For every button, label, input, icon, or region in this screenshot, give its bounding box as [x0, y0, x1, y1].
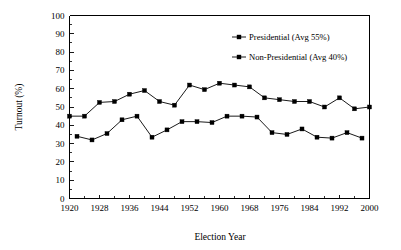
- data-point-marker: [360, 136, 364, 140]
- data-point-marker: [293, 100, 297, 104]
- legend-item-1: Presidential (Avg 55%): [232, 32, 330, 42]
- data-point-marker: [120, 118, 124, 122]
- x-tick-label: 1936: [121, 203, 140, 213]
- data-point-marker: [240, 114, 244, 118]
- turnout-line-chart: 0102030405060708090100 19201928193619441…: [0, 0, 401, 250]
- data-point-marker: [165, 128, 169, 132]
- data-point-marker: [353, 107, 357, 111]
- chart-figure: 0102030405060708090100 19201928193619441…: [0, 0, 401, 250]
- data-point-marker: [75, 134, 79, 138]
- y-tick-label: 10: [56, 175, 66, 185]
- legend-item-2: Non-Presidential (Avg 40%): [232, 52, 347, 62]
- x-tick-label: 1976: [271, 203, 290, 213]
- data-point-marker: [323, 105, 327, 109]
- y-axis-title: Turnout (%): [14, 84, 25, 131]
- y-tick-label: 90: [56, 29, 66, 39]
- x-tick-label: 1968: [241, 203, 260, 213]
- x-axis-title: Election Year: [194, 232, 246, 242]
- data-point-marker: [180, 120, 184, 124]
- y-tick-label: 70: [56, 65, 66, 75]
- data-point-marker: [135, 114, 139, 118]
- x-tick-label: 1952: [181, 203, 199, 213]
- data-point-marker: [158, 100, 162, 104]
- legend-label: Presidential (Avg 55%): [249, 32, 330, 42]
- data-point-marker: [203, 88, 207, 92]
- data-series-group: [68, 81, 372, 142]
- data-point-marker: [98, 100, 102, 104]
- x-tick-label: 1944: [151, 203, 170, 213]
- x-tick-label: 2000: [361, 203, 380, 213]
- legend-label: Non-Presidential (Avg 40%): [249, 52, 347, 62]
- x-tick-label: 1920: [61, 203, 80, 213]
- series-1: [68, 81, 372, 118]
- data-point-marker: [150, 135, 154, 139]
- data-point-marker: [300, 127, 304, 131]
- y-tick-label: 30: [56, 139, 66, 149]
- x-axis-tick-labels: 1920192819361944195219601968197619841992…: [61, 203, 380, 213]
- data-point-marker: [188, 83, 192, 87]
- data-point-marker: [68, 114, 72, 118]
- chart-legend: Presidential (Avg 55%)Non-Presidential (…: [232, 32, 347, 62]
- data-point-marker: [263, 96, 267, 100]
- y-axis-tick-labels: 0102030405060708090100: [51, 11, 65, 204]
- data-point-marker: [128, 92, 132, 96]
- data-point-marker: [248, 85, 252, 89]
- data-point-marker: [113, 100, 117, 104]
- data-point-marker: [270, 131, 274, 135]
- data-point-marker: [210, 121, 214, 125]
- x-tick-label: 1928: [91, 203, 110, 213]
- y-tick-label: 50: [56, 102, 66, 112]
- legend-marker-icon: [237, 55, 241, 59]
- series-2: [75, 114, 364, 142]
- data-point-marker: [338, 96, 342, 100]
- data-point-marker: [330, 136, 334, 140]
- data-point-marker: [308, 100, 312, 104]
- data-point-marker: [233, 83, 237, 87]
- x-tick-label: 1992: [331, 203, 349, 213]
- data-point-marker: [143, 89, 147, 93]
- y-tick-label: 20: [56, 157, 66, 167]
- y-tick-label: 60: [56, 84, 66, 94]
- series-line: [77, 116, 362, 140]
- data-point-marker: [218, 81, 222, 85]
- data-point-marker: [173, 103, 177, 107]
- x-axis-ticks: [70, 195, 370, 199]
- data-point-marker: [368, 105, 372, 109]
- data-point-marker: [195, 120, 199, 124]
- legend-marker-icon: [237, 35, 241, 39]
- data-point-marker: [285, 132, 289, 136]
- data-point-marker: [255, 115, 259, 119]
- x-tick-label: 1960: [211, 203, 230, 213]
- y-tick-label: 100: [51, 11, 65, 21]
- data-point-marker: [278, 98, 282, 102]
- data-point-marker: [83, 114, 87, 118]
- data-point-marker: [90, 138, 94, 142]
- data-point-marker: [315, 135, 319, 139]
- data-point-marker: [105, 132, 109, 136]
- y-axis-ticks: [70, 16, 74, 199]
- data-point-marker: [345, 131, 349, 135]
- y-tick-label: 40: [56, 120, 66, 130]
- data-point-marker: [225, 114, 229, 118]
- y-tick-label: 80: [56, 47, 66, 57]
- x-tick-label: 1984: [301, 203, 320, 213]
